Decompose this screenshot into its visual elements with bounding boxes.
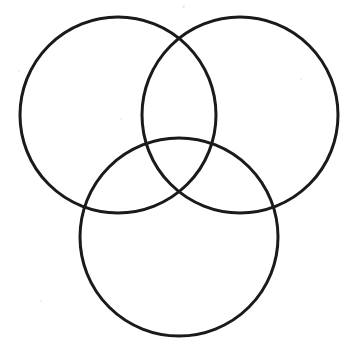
diagram-background (0, 0, 356, 343)
venn-diagram-svg (0, 0, 356, 343)
venn-diagram-canvas (0, 0, 356, 343)
